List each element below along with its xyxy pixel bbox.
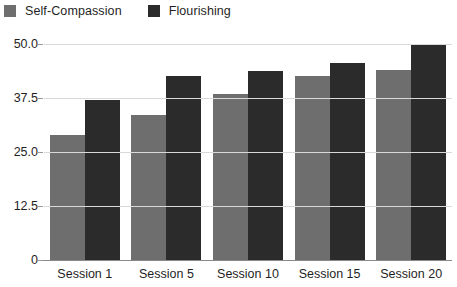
x-axis-tick-label: Session 20 xyxy=(370,267,452,281)
y-axis-tick xyxy=(37,44,43,45)
gridline xyxy=(44,152,452,153)
bar-self-compassion xyxy=(295,76,330,260)
gridline xyxy=(44,206,452,207)
legend-label-flourishing: Flourishing xyxy=(169,4,231,18)
y-axis-tick-label: 25.0 xyxy=(2,145,38,159)
y-axis-tick xyxy=(37,152,43,153)
legend-swatch-self-compassion xyxy=(4,5,16,17)
x-axis-tick-label: Session 5 xyxy=(126,267,208,281)
legend-swatch-flourishing xyxy=(148,5,160,17)
legend-entry-self-compassion: Self-Compassion xyxy=(4,4,122,18)
bar-flourishing xyxy=(330,63,365,260)
gridline xyxy=(44,98,452,99)
bar-flourishing xyxy=(166,76,201,260)
x-axis-tick-label: Session 15 xyxy=(289,267,371,281)
legend-label-self-compassion: Self-Compassion xyxy=(25,4,122,18)
y-axis-tick xyxy=(37,260,43,261)
y-axis-tick xyxy=(37,98,43,99)
x-axis-tick-label: Session 1 xyxy=(44,267,126,281)
gridline xyxy=(44,44,452,45)
legend-entry-flourishing: Flourishing xyxy=(148,4,231,18)
bar-flourishing xyxy=(248,71,283,260)
chart-legend: Self-Compassion Flourishing xyxy=(4,2,257,20)
plot-area: Session 1Session 5Session 10Session 15Se… xyxy=(44,44,452,260)
bar-chart: Self-Compassion Flourishing 50.037.525.0… xyxy=(0,0,457,287)
y-axis-tick-label: 0 xyxy=(2,253,38,267)
y-axis: 50.037.525.012.50 xyxy=(0,44,38,260)
bar-self-compassion xyxy=(50,135,85,260)
bar-flourishing xyxy=(85,100,120,260)
y-axis-tick-label: 37.5 xyxy=(2,91,38,105)
x-axis-tick-label: Session 10 xyxy=(207,267,289,281)
y-axis-tick-label: 50.0 xyxy=(2,37,38,51)
bar-self-compassion xyxy=(213,94,248,260)
bar-self-compassion xyxy=(131,115,166,260)
y-axis-tick xyxy=(37,206,43,207)
y-axis-tick-label: 12.5 xyxy=(2,199,38,213)
